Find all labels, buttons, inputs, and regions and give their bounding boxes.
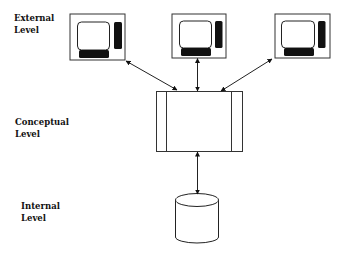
arrow-monitor-1-conceptual xyxy=(126,61,177,90)
monitor-3-icon xyxy=(275,14,330,58)
conceptual-schema-box xyxy=(157,92,243,152)
monitor-1-icon xyxy=(70,14,125,60)
database-cylinder-icon xyxy=(176,194,219,244)
monitor-2-icon xyxy=(172,14,226,58)
arrow-monitor-3-conceptual xyxy=(221,59,272,91)
architecture-diagram xyxy=(0,0,339,255)
